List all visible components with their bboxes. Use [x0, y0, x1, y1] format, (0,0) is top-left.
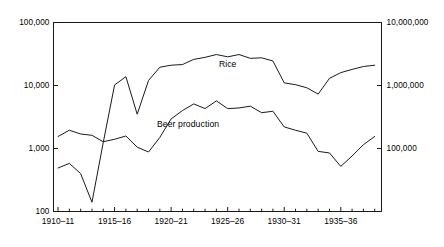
x-tick-label: 1910–11	[34, 216, 82, 226]
chart-figure: 100,00010,0001,000100 10,000,0001,000,00…	[0, 0, 444, 247]
x-tick-label: 1935–36	[317, 216, 365, 226]
x-tick-label: 1915–16	[91, 216, 139, 226]
series-annotation-rice: Rice	[219, 59, 237, 69]
y-left-tick-label: 10,000	[24, 81, 50, 91]
series-annotation-beer-production: Beer production	[157, 119, 219, 129]
chart-canvas	[0, 0, 444, 247]
y-right-tick-label: 100,000	[387, 144, 417, 154]
y-left-tick-label: 100,000	[19, 18, 49, 28]
y-left-tick-marks	[54, 86, 59, 149]
x-tick-label: 1925–26	[204, 216, 252, 226]
y-right-tick-label: 1,000,000	[387, 81, 424, 91]
plot-frame	[54, 23, 382, 212]
x-tick-label: 1930–31	[260, 216, 308, 226]
series-line-beer-production	[58, 101, 375, 167]
x-tick-label: 1920–21	[147, 216, 195, 226]
y-left-tick-label: 1,000	[29, 144, 50, 154]
y-right-tick-label: 10,000,000	[387, 18, 429, 28]
y-right-tick-marks	[377, 86, 382, 149]
plot-border	[54, 23, 382, 212]
x-major-tick-marks	[58, 207, 341, 212]
